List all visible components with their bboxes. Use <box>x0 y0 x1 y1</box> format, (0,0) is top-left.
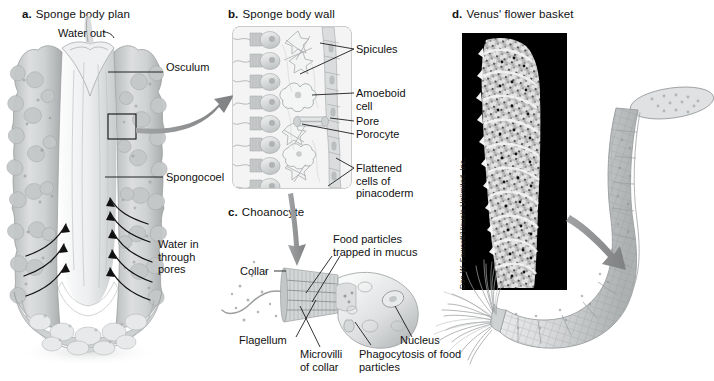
nucleus-shape <box>380 288 406 310</box>
label-spicules: Spicules <box>356 43 398 56</box>
label-food-particles-trapped-in-mucus: Food particles trapped in mucus <box>333 233 453 258</box>
venus-photograph <box>462 33 567 290</box>
label-flattened-cells-of-pinacoderm: Flattened cells of pinacoderm <box>356 162 432 200</box>
venus-illustration <box>434 82 714 364</box>
label-amoeboid-cell: Amoeboid cell <box>356 87 426 112</box>
panel-b-title-text: Sponge body wall <box>242 8 334 20</box>
label-osculum: Osculum <box>166 61 209 74</box>
spicules <box>282 31 313 180</box>
panel-a-artwork <box>7 14 167 366</box>
label-water-in-through-pores: Water in through pores <box>158 238 224 276</box>
label-porocyte: Porocyte <box>356 128 399 141</box>
amoeboid-cell-shape <box>280 83 316 112</box>
panel-a-callout-box <box>108 114 136 139</box>
panel-b-title: b.Sponge body wall <box>228 8 335 20</box>
flagellum-shape <box>222 291 284 313</box>
label-flagellum: Flagellum <box>239 334 287 347</box>
panel-d-artwork <box>434 33 714 364</box>
label-water-out: Water out <box>58 27 105 40</box>
panel-a-title-text: Sponge body plan <box>36 8 130 20</box>
label-spongocoel: Spongocoel <box>166 171 224 184</box>
panel-b-box <box>233 27 351 188</box>
porocyte-shape <box>294 117 329 127</box>
panel-d-title-text: Venus' flower basket <box>466 8 573 20</box>
panel-b-letter: b. <box>228 8 238 20</box>
panel-a-letter: a. <box>22 8 32 20</box>
label-collar: Collar <box>240 265 269 278</box>
label-phagocytosis-of-food-particles: Phagocytosis of food particles <box>359 348 483 373</box>
panel-c-letter: c. <box>228 206 238 218</box>
panel-b-artwork <box>233 27 354 196</box>
panel-d-letter: d. <box>452 8 462 20</box>
panel-c-title-text: Choanocyte <box>242 206 304 218</box>
label-microvilli-of-collar: Microvilli of collar <box>300 348 358 373</box>
arrow-a-to-b <box>136 95 234 134</box>
photo-credit: Don W. Fawcett/Visuals Unlimited, Inc. <box>458 158 467 289</box>
arrow-b-to-c <box>288 193 306 266</box>
panel-a-title: a.Sponge body plan <box>22 8 130 20</box>
choanocyte-cells <box>233 32 280 196</box>
collar-shape <box>281 268 339 322</box>
panel-d-title: d.Venus' flower basket <box>452 8 574 20</box>
sponge-figure: a.Sponge body plan b.Sponge body wall c.… <box>0 0 714 381</box>
label-nucleus: Nucleus <box>400 334 440 347</box>
panel-c-title: c.Choanocyte <box>228 206 304 218</box>
label-pore: Pore <box>356 115 379 128</box>
arrow-photo-to-illustration <box>566 215 626 270</box>
